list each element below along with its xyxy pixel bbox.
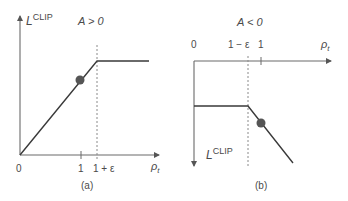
panel-a: LCLIP A > 0 0 1 1 + ε ρt (a)	[16, 12, 160, 191]
tick-label-0-a: 0	[16, 163, 22, 174]
condition-label-b: A < 0	[236, 16, 263, 28]
y-axis-label-a: LCLIP	[26, 12, 53, 28]
caption-b: (b)	[255, 180, 267, 191]
x-axis-label-a: ρt	[150, 160, 160, 175]
tick-label-1-a: 1	[78, 163, 84, 174]
x-axis-label-b: ρt	[320, 38, 330, 53]
condition-label-a: A > 0	[77, 15, 104, 27]
clip-objective-diagram: LCLIP A > 0 0 1 1 + ε ρt (a) A < 0 0 1 −…	[0, 0, 348, 201]
tick-label-1-b: 1	[258, 39, 264, 50]
caption-a: (a)	[81, 180, 93, 191]
tick-label-1me-b: 1 − ε	[228, 39, 250, 50]
tick-label-1pe-a: 1 + ε	[93, 163, 115, 174]
ratio-dot-b	[257, 119, 266, 128]
ratio-dot-a	[76, 76, 85, 85]
y-axis-label-b: LCLIP	[206, 146, 233, 162]
clip-curve-a	[20, 61, 149, 155]
panel-b: A < 0 0 1 − ε 1 ρt LCLIP (b)	[191, 16, 331, 191]
tick-label-0-b: 0	[191, 39, 197, 50]
